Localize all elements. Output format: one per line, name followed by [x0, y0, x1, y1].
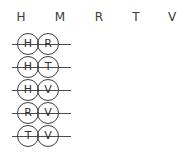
circled-letter-right: V [37, 102, 59, 124]
circled-letter-left: T [17, 125, 39, 147]
header-letter-4: T [129, 10, 143, 24]
circled-letter-left-label: H [18, 34, 38, 54]
diagram-canvas: H M R T V H R H T H V R [0, 0, 188, 163]
pair-row: H V [0, 79, 188, 103]
pair-row: T V [0, 125, 188, 149]
circled-letter-right-label: V [38, 126, 58, 146]
pair-row: H R [0, 33, 188, 57]
circled-letter-left-label: H [18, 57, 38, 77]
header-letter-1: H [14, 10, 28, 24]
circled-letter-left: H [17, 79, 39, 101]
circled-letter-right-label: V [38, 80, 58, 100]
circled-letter-left: H [17, 56, 39, 78]
circled-letter-left: R [17, 102, 39, 124]
circled-letter-left-label: T [18, 126, 38, 146]
circled-letter-right-label: R [38, 34, 58, 54]
circled-letter-right-label: T [38, 57, 58, 77]
header-letter-2: M [53, 10, 67, 24]
circled-letter-left-label: H [18, 80, 38, 100]
circled-letter-right: V [37, 125, 59, 147]
circled-letter-right: R [37, 33, 59, 55]
circled-letter-right-label: V [38, 103, 58, 123]
circled-letter-left: H [17, 33, 39, 55]
pair-row: R V [0, 102, 188, 126]
circled-letter-right: T [37, 56, 59, 78]
circled-letter-right: V [37, 79, 59, 101]
header-letter-3: R [92, 10, 106, 24]
pair-row: H T [0, 56, 188, 80]
header-letter-5: V [165, 10, 179, 24]
circled-letter-left-label: R [18, 103, 38, 123]
